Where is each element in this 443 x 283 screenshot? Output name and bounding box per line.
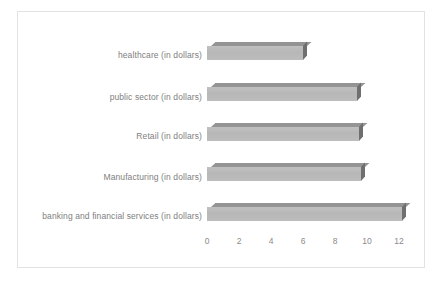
chart-container: healthcare (in dollars) public sector (i… <box>0 0 443 283</box>
x-tick-0: 0 <box>197 236 217 246</box>
bar-public-sector[interactable] <box>207 83 361 101</box>
bar-front-face <box>207 207 402 221</box>
bar-front-face <box>207 167 361 181</box>
bar-banking-financial-services[interactable] <box>207 203 406 221</box>
bar-side-face <box>361 163 365 181</box>
x-tick-8: 8 <box>325 236 345 246</box>
category-label-banking-financial-services: banking and financial services (in dolla… <box>42 211 202 221</box>
x-tick-4: 4 <box>261 236 281 246</box>
x-tick-12: 12 <box>389 236 409 246</box>
category-label-public-sector: public sector (in dollars) <box>110 92 202 102</box>
bar-manufacturing[interactable] <box>207 163 365 181</box>
bar-side-face <box>303 42 307 60</box>
bar-side-face <box>357 83 361 101</box>
bar-healthcare[interactable] <box>207 42 307 60</box>
x-tick-2: 2 <box>229 236 249 246</box>
category-label-retail: Retail (in dollars) <box>136 131 202 141</box>
category-label-manufacturing: Manufacturing (in dollars) <box>103 172 202 182</box>
bar-side-face <box>359 123 363 141</box>
bar-front-face <box>207 46 303 60</box>
plot-area: healthcare (in dollars) public sector (i… <box>0 0 443 283</box>
bar-retail[interactable] <box>207 123 363 141</box>
x-tick-10: 10 <box>357 236 377 246</box>
bar-front-face <box>207 127 359 141</box>
x-tick-6: 6 <box>293 236 313 246</box>
category-label-healthcare: healthcare (in dollars) <box>118 50 202 60</box>
bar-front-face <box>207 87 357 101</box>
bar-side-face <box>402 203 406 221</box>
